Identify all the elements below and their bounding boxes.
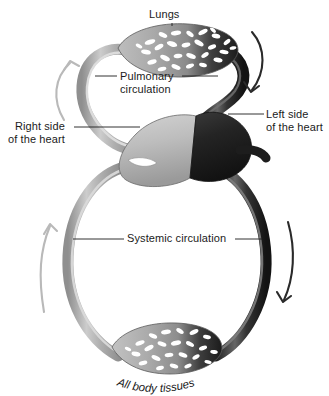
body-tissues-structure (112, 323, 222, 374)
heart-structure (119, 112, 266, 186)
systemic-circulation-label: Systemic circulation (127, 232, 226, 245)
pulmonary-artery-arrow (56, 63, 70, 120)
vena-cava-arrowhead (44, 224, 57, 234)
circulation-diagram-figure: All body tissues Lungs Pulmonary circula… (0, 0, 329, 396)
pulmonary-circulation-label-line1: Pulmonary (120, 70, 173, 83)
left-side-of-heart-label: Left side of the heart (266, 108, 323, 134)
aorta-arrow (284, 222, 293, 300)
lungs-label: Lungs (149, 8, 179, 21)
left-side-of-heart-label-line2: of the heart (266, 121, 323, 134)
right-side-of-heart-label: Right side of the heart (8, 120, 65, 146)
aorta-arrowhead (277, 292, 291, 302)
right-side-of-heart-label-line1: Right side (8, 120, 65, 133)
pulmonary-circulation-label: Pulmonary circulation (120, 70, 173, 96)
left-side-of-heart-label-line1: Left side (266, 108, 323, 121)
heart-right-side (119, 115, 196, 187)
pulmonary-vein-arrow (252, 32, 263, 90)
body-tissues-label-text: All body tissues (115, 375, 196, 394)
body-tissues-label-path: All body tissues (115, 375, 196, 394)
circulation-diagram-svg: All body tissues (0, 0, 329, 396)
pulmonary-artery-arrowhead (64, 61, 79, 70)
right-side-of-heart-label-line2: of the heart (8, 133, 65, 146)
vena-cava-vessel (68, 168, 121, 356)
vena-cava-arrow (41, 226, 50, 312)
pulmonary-circulation-label-line2: circulation (120, 83, 173, 96)
aorta-vessel (214, 166, 266, 356)
